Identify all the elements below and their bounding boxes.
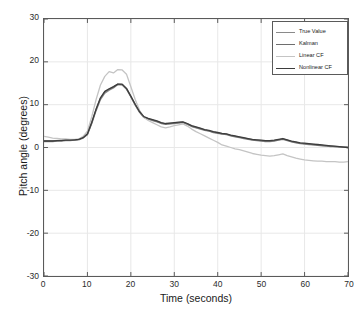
x-tick-label: 40 bbox=[203, 280, 233, 289]
x-tick-label: 0 bbox=[28, 280, 58, 289]
curve-linear-cf bbox=[44, 70, 348, 163]
figure: 3020100-10-20-30 010203040506070 Time (s… bbox=[0, 0, 362, 319]
y-axis-title: Pitch angle (degrees) bbox=[17, 46, 29, 246]
legend-item: Nonlinear CF bbox=[276, 62, 344, 74]
legend: True ValueKalmanLinear CFNonlinear CF bbox=[272, 21, 348, 75]
curve-nonlinear-cf bbox=[44, 84, 348, 147]
legend-color-swatch bbox=[276, 68, 295, 69]
curve-kalman bbox=[44, 84, 348, 147]
legend-label: Linear CF bbox=[299, 53, 324, 59]
x-tick-label: 20 bbox=[115, 280, 145, 289]
x-tick-label: 10 bbox=[72, 280, 102, 289]
x-axis-title: Time (seconds) bbox=[43, 292, 349, 304]
legend-label: True Value bbox=[299, 29, 326, 35]
legend-item: Linear CF bbox=[276, 50, 344, 62]
x-tick-label: 50 bbox=[247, 280, 277, 289]
legend-color-swatch bbox=[276, 32, 295, 33]
legend-color-swatch bbox=[276, 56, 295, 57]
y-tick-label: 30 bbox=[0, 13, 39, 22]
curve-true-value bbox=[44, 85, 348, 148]
legend-item: True Value bbox=[276, 26, 344, 38]
legend-item: Kalman bbox=[276, 38, 344, 50]
x-tick-label: 30 bbox=[159, 280, 189, 289]
legend-color-swatch bbox=[276, 44, 295, 45]
legend-label: Kalman bbox=[299, 41, 318, 47]
x-tick-label: 70 bbox=[334, 280, 362, 289]
x-tick-label: 60 bbox=[290, 280, 320, 289]
legend-label: Nonlinear CF bbox=[299, 65, 332, 71]
